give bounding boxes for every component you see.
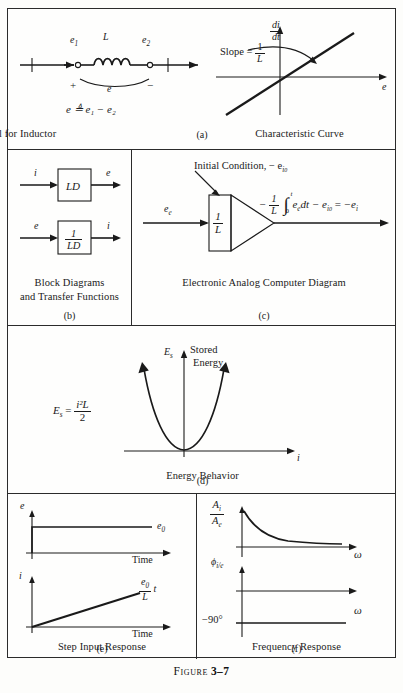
stored-energy-label-line1: Stored	[190, 345, 217, 356]
ramp-current-y-label: i	[19, 571, 22, 581]
voltage-label: e	[107, 84, 111, 94]
characteristic-y-axis-label: di dt	[270, 20, 282, 42]
panel-b: i LD e e 1 LD i Block Diagrams and Trans…	[8, 149, 131, 325]
amplitude-ratio-plot	[210, 499, 390, 561]
panel-f: Ai Ae ω ϕi/e ω −90° Frequency Response	[196, 493, 397, 659]
step-level-label: e0	[157, 521, 165, 534]
polarity-minus-label: −	[147, 80, 153, 91]
block1-transfer-label: LD	[66, 181, 80, 192]
phase-plot	[210, 565, 390, 641]
amplitude-ratio-x-label: ω	[354, 549, 362, 560]
panel-a-letter: (a)	[182, 129, 222, 140]
panel-c: Initial Condition, − ei0 ee 1 L − 1 L ∫t…	[131, 149, 397, 325]
initial-condition-label: Initial Condition, − ei0	[194, 161, 287, 174]
panel-a-right-caption: Characteristic Curve	[202, 128, 397, 139]
panel-e: e e0 Time i e0 L t Time Step Inp	[8, 493, 196, 659]
analog-computer-drawing	[139, 167, 395, 271]
slope-annotation: Slope = 1 L	[220, 42, 265, 64]
panel-d-letter: (d)	[8, 475, 397, 486]
panel-b-letter: (b)	[8, 310, 131, 321]
characteristic-x-axis-label: e	[382, 82, 386, 92]
block2-output-label: i	[107, 221, 110, 231]
figure-caption: Figure 3–7	[0, 665, 403, 677]
node1-label: e1	[70, 35, 78, 48]
energy-y-axis-label: Es	[164, 347, 173, 360]
ramp-expression-label: e0 L t	[139, 577, 156, 602]
integrator-gain-label: 1 L	[213, 211, 223, 235]
block2-transfer-label: 1 LD	[65, 228, 82, 251]
polarity-plus-label: +	[70, 80, 76, 91]
phase-x-label: ω	[354, 605, 362, 616]
block2-input-label: e	[34, 221, 38, 231]
analog-input-label: ee	[164, 204, 172, 217]
figure-caption-number: 3–7	[211, 665, 229, 677]
analog-output-expression: − 1 L ∫t0 eedt − ei0 = −ei	[259, 194, 358, 216]
characteristic-curve-plot	[204, 19, 394, 127]
panel-c-caption: Electronic Analog Computer Diagram	[131, 277, 397, 288]
energy-x-axis-label: i	[297, 453, 300, 463]
node2-label: e2	[142, 35, 150, 48]
panel-d: Es Stored Energy i Es = i²L 2 Energy Beh…	[8, 325, 397, 493]
panel-b-caption-line1: Block Diagrams	[8, 277, 131, 288]
stored-energy-label-line2: Energy	[193, 358, 223, 369]
inductor-symbol-drawing	[16, 43, 206, 103]
panel-f-letter: (f)	[196, 643, 397, 654]
inductor-definition-equation: e ≜ e₁ − e₂	[66, 104, 116, 115]
phase-value-label: −90°	[202, 615, 223, 626]
figure-caption-word: Figure	[174, 665, 208, 677]
phase-y-label: ϕi/e	[211, 557, 223, 570]
block1-input-label: i	[34, 168, 37, 178]
panel-b-caption-line2: and Transfer Functions	[8, 291, 131, 302]
figure-grid: e1 L e2 + − e e ≜ e₁ − e₂ Symbol for Ind…	[7, 8, 396, 658]
ramp-current-x-label: Time	[132, 629, 153, 639]
block1-output-label: e	[106, 168, 110, 178]
step-voltage-y-label: e	[20, 501, 24, 511]
panel-a: e1 L e2 + − e e ≜ e₁ − e₂ Symbol for Ind…	[8, 9, 397, 149]
panel-c-letter: (c)	[131, 310, 397, 321]
panel-a-left-caption: Symbol for Inductor	[0, 128, 207, 139]
panel-e-letter: (e)	[8, 643, 196, 654]
energy-equation: Es = i²L 2	[53, 399, 91, 423]
ramp-current-plot	[18, 571, 188, 641]
step-voltage-x-label: Time	[132, 555, 153, 565]
inductance-label: L	[103, 32, 109, 42]
amplitude-ratio-y-label: Ai Ae	[210, 499, 224, 529]
figure-page: e1 L e2 + − e e ≜ e₁ − e₂ Symbol for Ind…	[0, 0, 403, 693]
